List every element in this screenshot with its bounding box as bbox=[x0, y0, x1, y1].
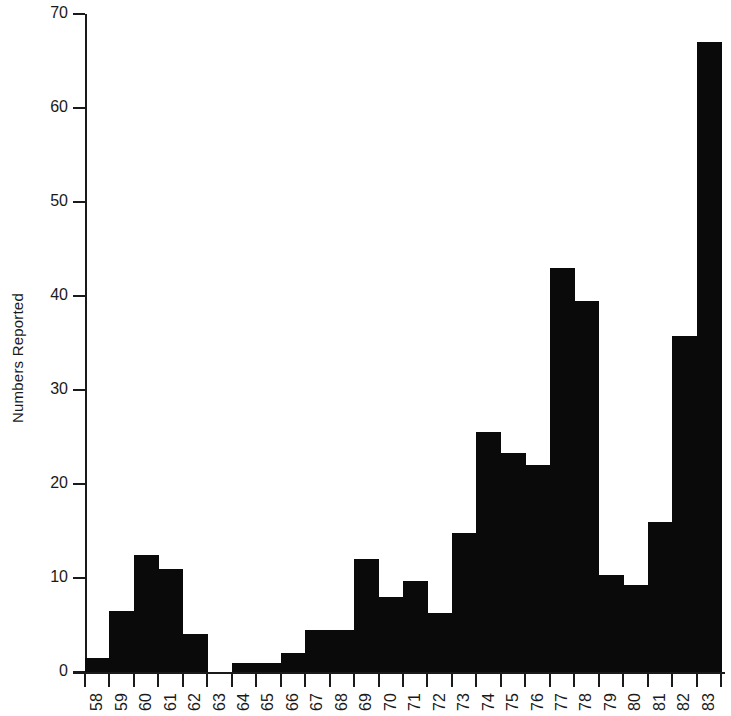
bar bbox=[281, 653, 306, 672]
x-axis-tick-label: 74 bbox=[477, 690, 501, 714]
x-axis-tick-mark bbox=[696, 674, 698, 687]
x-axis-tick-label: 76 bbox=[526, 690, 550, 714]
x-axis-tick-mark bbox=[475, 674, 477, 687]
y-axis-tick-label: 50 bbox=[50, 191, 68, 211]
bar bbox=[109, 611, 134, 672]
x-axis-tick-mark bbox=[500, 674, 502, 687]
x-axis-tick-label: 59 bbox=[110, 690, 134, 714]
x-axis-tick-label: 72 bbox=[428, 690, 452, 714]
x-axis-tick-mark bbox=[647, 674, 649, 687]
x-axis-tick-mark bbox=[280, 674, 282, 687]
y-axis-tick-mark bbox=[73, 201, 85, 203]
x-axis-tick-label: 79 bbox=[599, 690, 623, 714]
x-axis-tick-label: 75 bbox=[501, 690, 525, 714]
x-axis-tick-label: 62 bbox=[183, 690, 207, 714]
bar bbox=[403, 581, 428, 672]
x-axis-tick-mark bbox=[451, 674, 453, 687]
bar bbox=[354, 559, 379, 672]
x-axis-tick-mark bbox=[304, 674, 306, 687]
y-axis-tick-label: 60 bbox=[50, 97, 68, 117]
plot-area bbox=[85, 14, 721, 672]
x-axis-tick-label: 64 bbox=[232, 690, 256, 714]
x-axis-tick-label: 61 bbox=[159, 690, 183, 714]
x-axis-tick-label: 73 bbox=[452, 690, 476, 714]
y-axis-tick-mark bbox=[73, 577, 85, 579]
x-axis-tick-mark bbox=[206, 674, 208, 687]
y-axis-tick-label: 40 bbox=[50, 285, 68, 305]
x-axis-tick-label: 63 bbox=[208, 690, 232, 714]
bar bbox=[305, 630, 330, 672]
y-axis-tick-mark bbox=[73, 295, 85, 297]
bar bbox=[550, 268, 575, 672]
x-axis-tick-mark bbox=[524, 674, 526, 687]
y-axis-tick-mark bbox=[73, 671, 85, 673]
y-axis-tick-label: 10 bbox=[50, 567, 68, 587]
bar bbox=[452, 533, 477, 672]
x-axis-tick-mark bbox=[549, 674, 551, 687]
x-axis-tick-label: 83 bbox=[697, 690, 721, 714]
bar bbox=[256, 663, 281, 672]
y-axis-label: Numbers Reported bbox=[0, 0, 34, 716]
x-axis-tick-label: 60 bbox=[134, 690, 158, 714]
y-axis-tick-label: 0 bbox=[59, 661, 68, 681]
x-axis-tick-label: 67 bbox=[305, 690, 329, 714]
x-axis-tick-label: 58 bbox=[85, 690, 109, 714]
bar bbox=[648, 522, 673, 672]
bar bbox=[427, 613, 452, 672]
x-axis-line bbox=[73, 672, 725, 674]
x-axis-tick-mark bbox=[378, 674, 380, 687]
x-axis-tick-mark bbox=[108, 674, 110, 687]
x-axis-tick-mark bbox=[84, 674, 86, 687]
x-axis-tick-label: 82 bbox=[672, 690, 696, 714]
bar-chart: Numbers Reported 010203040506070 5859606… bbox=[0, 0, 731, 716]
bar bbox=[379, 597, 404, 672]
bar bbox=[232, 663, 257, 672]
bar bbox=[672, 336, 697, 672]
x-axis-tick-mark bbox=[426, 674, 428, 687]
x-axis-tick-label: 71 bbox=[403, 690, 427, 714]
x-axis-tick-label: 69 bbox=[354, 690, 378, 714]
bar bbox=[697, 42, 722, 672]
x-axis-tick-label: 81 bbox=[648, 690, 672, 714]
bar bbox=[623, 585, 648, 672]
x-axis-tick-mark bbox=[133, 674, 135, 687]
y-axis-tick-mark bbox=[73, 483, 85, 485]
x-axis-tick-mark bbox=[182, 674, 184, 687]
x-axis-tick-mark bbox=[598, 674, 600, 687]
y-axis-tick-mark bbox=[73, 13, 85, 15]
bar bbox=[330, 630, 355, 672]
x-axis-tick-label: 68 bbox=[330, 690, 354, 714]
x-axis-tick-label: 80 bbox=[623, 690, 647, 714]
y-axis-tick-label: 70 bbox=[50, 3, 68, 23]
x-axis-tick-mark bbox=[622, 674, 624, 687]
x-axis-tick-label: 65 bbox=[256, 690, 280, 714]
x-axis-tick-mark bbox=[402, 674, 404, 687]
bar bbox=[501, 453, 526, 672]
bar bbox=[158, 569, 183, 672]
x-axis-tick-label: 77 bbox=[550, 690, 574, 714]
x-axis-tick-mark bbox=[329, 674, 331, 687]
y-axis-tick-label: 20 bbox=[50, 473, 68, 493]
x-axis-tick-mark bbox=[353, 674, 355, 687]
y-axis-tick-mark bbox=[73, 389, 85, 391]
y-axis-tick-mark bbox=[73, 107, 85, 109]
x-axis-tick-mark bbox=[255, 674, 257, 687]
bar bbox=[134, 555, 159, 673]
bar bbox=[574, 301, 599, 672]
x-axis-tick-label: 66 bbox=[281, 690, 305, 714]
x-axis-tick-label: 70 bbox=[379, 690, 403, 714]
bar bbox=[599, 575, 624, 672]
x-axis-tick-mark bbox=[573, 674, 575, 687]
bar bbox=[85, 658, 110, 672]
bar bbox=[183, 634, 208, 672]
x-axis-tick-label: 78 bbox=[574, 690, 598, 714]
x-axis-tick-mark bbox=[157, 674, 159, 687]
bar bbox=[525, 465, 550, 672]
x-axis-tick-mark bbox=[231, 674, 233, 687]
y-axis-tick-label: 30 bbox=[50, 379, 68, 399]
x-axis-tick-mark bbox=[720, 674, 722, 687]
x-axis-tick-mark bbox=[671, 674, 673, 687]
bar bbox=[476, 432, 501, 672]
